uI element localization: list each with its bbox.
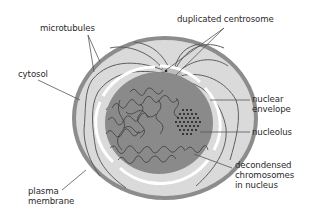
label-plasma-membrane-line1: plasma (28, 186, 59, 196)
label-nuclear-envelope-line1: nuclear (252, 94, 283, 104)
label-chromosomes-line2: chromosomes (235, 170, 294, 180)
label-chromosomes-line3: in nucleus (235, 180, 278, 190)
label-cytosol: cytosol (18, 69, 48, 79)
cell-diagram: microtubules cytosol plasma membrane dup… (0, 0, 312, 217)
label-duplicated-centrosome: duplicated centrosome (177, 14, 274, 24)
label-chromosomes-line1: decondensed (235, 160, 291, 170)
label-nuclear-envelope-line2: envelope (252, 104, 291, 114)
label-plasma-membrane-line2: membrane (28, 196, 74, 206)
label-nucleolus: nucleolus (252, 127, 292, 137)
label-microtubules: microtubules (40, 23, 95, 33)
